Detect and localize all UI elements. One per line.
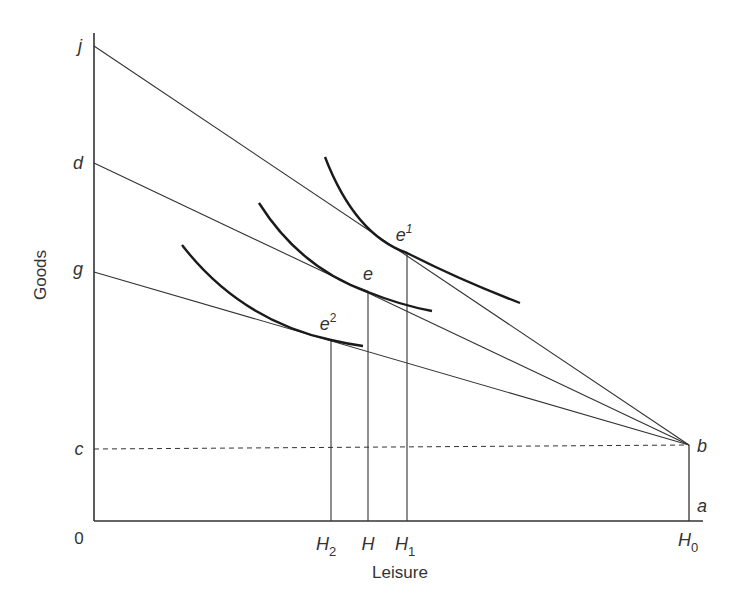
label-h1: H1 <box>395 534 415 559</box>
label-a: a <box>697 496 707 516</box>
indifference-curve-upper <box>325 157 520 303</box>
label-e1: e1 <box>396 222 413 245</box>
y-axis-label: Goods <box>31 250 50 300</box>
origin-label: 0 <box>74 529 83 548</box>
label-c: c <box>75 439 84 459</box>
label-h2: H2 <box>316 534 336 559</box>
label-j: j <box>75 36 83 56</box>
dashed-line-cb <box>94 445 689 449</box>
label-h: H <box>362 534 376 554</box>
budget-line-gb <box>94 272 689 445</box>
x-axis-label: Leisure <box>372 563 428 582</box>
label-b: b <box>697 436 707 456</box>
indifference-curve-lower <box>182 245 363 346</box>
indifference-curve-middle <box>259 203 432 311</box>
label-e: e <box>363 264 373 284</box>
label-h0: H0 <box>678 530 698 555</box>
label-g: g <box>73 259 83 279</box>
label-e2: e2 <box>320 311 337 334</box>
label-d: d <box>73 153 84 173</box>
diagram-canvas: Goods Leisure 0 j d g c H2 H H1 H0 b a e… <box>0 0 734 605</box>
budget-line-db <box>94 163 689 445</box>
